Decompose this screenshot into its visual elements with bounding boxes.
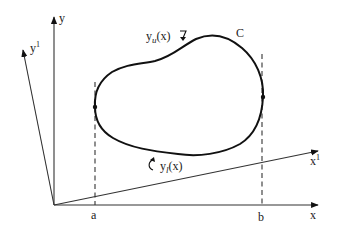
y1-label-superscript: 1 <box>36 40 40 49</box>
lower-pointer-arrow-icon <box>149 160 153 170</box>
y1-axis-label: y1 <box>30 40 40 55</box>
bound-a-label: a <box>91 208 97 222</box>
upper-pointer-arrowhead-icon <box>180 37 186 41</box>
upper-branch-label: yu(x) <box>146 29 171 45</box>
y-axis-label: y <box>59 11 65 25</box>
tangent-point-b <box>261 95 265 99</box>
upper-label-arg: (x) <box>157 29 171 43</box>
curve-c <box>95 36 263 156</box>
x-axis-label: x <box>310 208 316 222</box>
bound-b-label: b <box>258 210 264 224</box>
curve-label-c: C <box>236 26 244 40</box>
diagram-canvas: y y1 x x1 a b C yu(x) yl(x) <box>0 0 337 233</box>
y1-axis <box>23 50 54 205</box>
lower-label-arg: (x) <box>169 159 183 173</box>
upper-pointer-arrow-icon <box>180 31 186 38</box>
lower-branch-label: yl(x) <box>160 159 183 175</box>
x1-label-superscript: 1 <box>316 153 320 162</box>
tangent-point-a <box>93 105 97 109</box>
x1-axis <box>54 151 318 205</box>
x1-axis-label: x1 <box>310 153 320 168</box>
